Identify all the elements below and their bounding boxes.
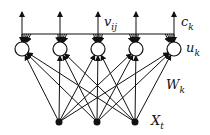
label-v-ij: vij — [104, 15, 117, 32]
input-edge — [97, 55, 133, 122]
recurrent-edge — [23, 34, 24, 42]
recurrent-edge — [94, 34, 96, 42]
recurrent-edge — [172, 34, 173, 42]
recurrent-edge — [137, 34, 138, 42]
hidden-node — [15, 42, 29, 56]
hidden-node — [91, 42, 105, 56]
recurrent-edge — [100, 34, 102, 42]
input-node — [132, 119, 139, 126]
hidden-node — [167, 42, 181, 56]
input-edge — [63, 55, 97, 122]
input-edge — [59, 53, 168, 122]
label-x-t: Xt — [151, 114, 164, 131]
input-edge — [135, 56, 136, 122]
label-u-k: uk — [186, 41, 200, 58]
recurrent-edge — [61, 34, 62, 42]
label-c-k: ck — [181, 15, 194, 32]
input-edge — [25, 55, 59, 122]
input-edge — [59, 56, 60, 122]
hidden-node — [53, 42, 67, 56]
input-node — [56, 119, 63, 126]
recurrent-edge — [58, 34, 59, 42]
input-edge — [27, 54, 97, 122]
hidden-node — [129, 42, 143, 56]
input-edge — [59, 54, 131, 122]
recurrent-edge — [134, 34, 135, 42]
input-edge — [97, 54, 169, 122]
label-w-k: Wk — [166, 78, 185, 95]
input-edge — [97, 56, 98, 122]
input-edge — [101, 55, 135, 122]
recurrent-edge — [99, 34, 100, 42]
recurrent-edge — [96, 34, 97, 42]
input-node — [94, 119, 101, 126]
input-edge — [28, 53, 135, 122]
